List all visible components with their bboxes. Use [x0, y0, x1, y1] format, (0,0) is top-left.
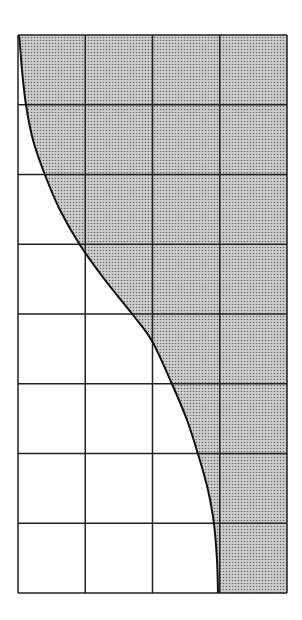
shaded-grid-diagram — [0, 0, 302, 620]
